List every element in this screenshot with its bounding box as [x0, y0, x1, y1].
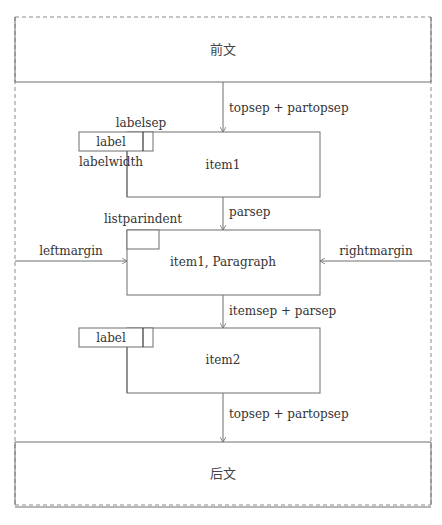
parsep-label: parsep	[229, 205, 271, 219]
listparindent-box	[127, 230, 159, 249]
label1-text: label	[96, 135, 126, 149]
item1-text: item1	[206, 158, 241, 172]
before-text-band: 前文	[15, 17, 431, 82]
after-text-band: 后文	[15, 442, 431, 507]
topsep-bottom-label: topsep + partopsep	[229, 407, 349, 421]
paragraph-text: item1, Paragraph	[170, 255, 276, 269]
labelwidth-label: labelwidth	[79, 155, 143, 169]
leftmargin-label: leftmargin	[39, 244, 103, 258]
listparindent-label: listparindent	[104, 212, 182, 226]
list-layout-diagram: 前文 topsep + partopsep labelsep item1 lab…	[0, 0, 442, 525]
rightmargin-label: rightmargin	[339, 244, 413, 258]
after-text: 后文	[210, 466, 236, 481]
topsep-top-label: topsep + partopsep	[229, 101, 349, 115]
itemsep-label: itemsep + parsep	[229, 304, 337, 318]
label2-text: label	[96, 331, 126, 345]
labelsep-label: labelsep	[116, 116, 167, 130]
item2-text: item2	[206, 353, 241, 367]
before-text: 前文	[210, 42, 236, 57]
